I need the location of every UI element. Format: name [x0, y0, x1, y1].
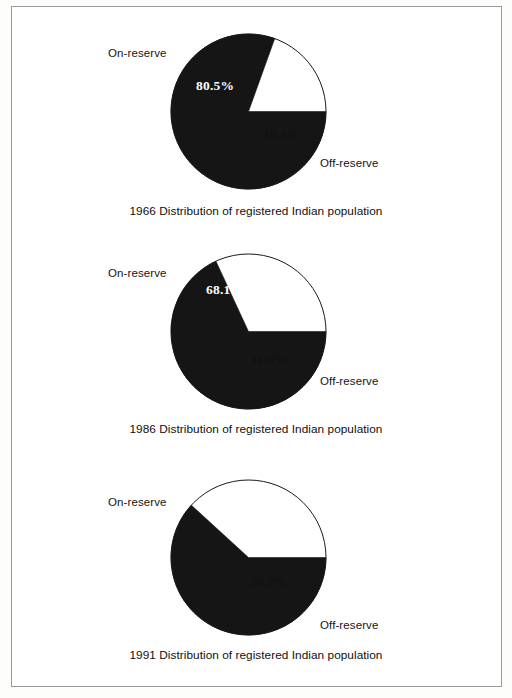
- pie-value-off-reserve-1966: 19.5%: [263, 127, 299, 143]
- pie-chart-1966: On-reserve Off-reserve 80.5% 19.5%: [0, 28, 512, 200]
- pie-caption-1986: 1986 Distribution of registered Indian p…: [0, 422, 512, 436]
- pie-value-off-reserve-1991: 38.2%: [250, 574, 286, 590]
- pie-value-on-reserve-1966: 80.5%: [196, 78, 234, 94]
- pie-label-off-reserve-1991: Off-reserve: [320, 619, 378, 631]
- pie-caption-1966: 1966 Distribution of registered Indian p…: [0, 204, 512, 218]
- pie-graphic-1966: [170, 33, 327, 190]
- pie-figure-1991: On-reserve Off-reserve 61.8 38.2% 1991 D…: [0, 476, 512, 648]
- pie-value-off-reserve-1986: 31.9%: [250, 352, 286, 368]
- pie-label-off-reserve-1986: Off-reserve: [320, 375, 378, 387]
- pie-label-on-reserve-1986: On-reserve: [108, 267, 167, 279]
- pie-label-off-reserve-1966: Off-reserve: [320, 157, 378, 169]
- pie-label-on-reserve-1991: On-reserve: [108, 496, 167, 508]
- pie-figure-1986: On-reserve Off-reserve 68.1% 31.9% 1986 …: [0, 250, 512, 422]
- pie-figure-1966: On-reserve Off-reserve 80.5% 19.5% 1966 …: [0, 28, 512, 200]
- pie-chart-1991: On-reserve Off-reserve 61.8 38.2%: [0, 476, 512, 648]
- pie-caption-1991: 1991 Distribution of registered Indian p…: [0, 648, 512, 662]
- pie-value-on-reserve-1986: 68.1%: [206, 282, 244, 298]
- pie-graphic-1991: [170, 479, 327, 636]
- pie-label-on-reserve-1966: On-reserve: [108, 47, 167, 59]
- pie-chart-1986: On-reserve Off-reserve 68.1% 31.9%: [0, 250, 512, 422]
- pie-value-on-reserve-1991: 61.8: [230, 508, 254, 524]
- pie-graphic-1986: [170, 253, 327, 410]
- scanned-page: On-reserve Off-reserve 80.5% 19.5% 1966 …: [0, 0, 512, 698]
